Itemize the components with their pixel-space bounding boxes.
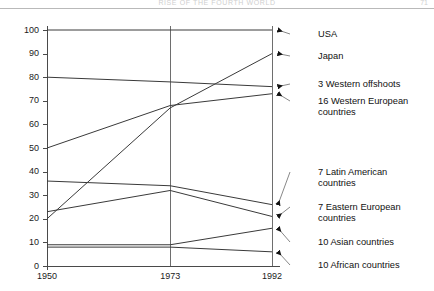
leader-western-european <box>278 94 290 101</box>
leader-western-offshoots <box>278 84 290 87</box>
callout-label-latin-american: 7 Latin American countries <box>318 167 387 188</box>
leader-african <box>278 252 290 265</box>
callout-label-eastern-european: 7 Eastern European countries <box>318 202 401 223</box>
callout-label-western-european: 16 Western European countries <box>318 96 408 117</box>
leader-usa <box>278 30 290 34</box>
leader-latin-american <box>278 172 290 205</box>
leader-eastern-european <box>278 207 290 216</box>
callout-label-western-offshoots: 3 Western offshoots <box>318 79 400 90</box>
callout-label-japan: Japan <box>318 51 343 62</box>
callout-label-asian: 10 Asian countries <box>318 237 394 248</box>
callout-label-usa: USA <box>318 29 337 40</box>
leader-asian <box>278 228 290 242</box>
figure-page: RISE OF THE FOURTH WORLD 71 010203040506… <box>0 0 434 291</box>
callout-label-african: 10 African countries <box>318 260 400 271</box>
leader-japan <box>278 54 290 56</box>
